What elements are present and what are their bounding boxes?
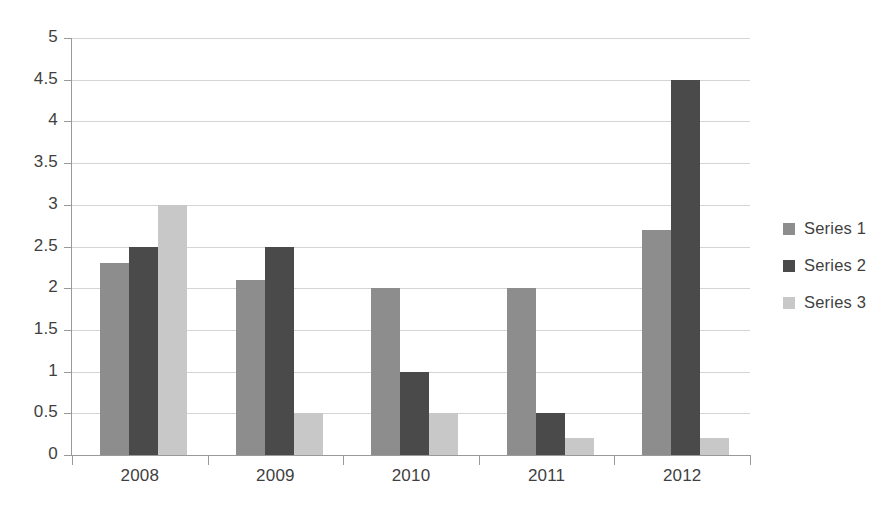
y-axis-tick-label: 0.5: [2, 402, 58, 422]
legend-label: Series 3: [804, 293, 866, 312]
y-axis-tick-label: 5: [2, 27, 58, 47]
y-axis-tick: [64, 247, 72, 248]
bar-2012-series-2: [671, 80, 700, 455]
y-axis-tick-label: 4.5: [2, 69, 58, 89]
bar-2011-series-1: [507, 288, 536, 455]
bar-2008-series-1: [100, 263, 129, 455]
y-axis-tick-label: 4: [2, 110, 58, 130]
y-axis-tick: [64, 288, 72, 289]
bar-group: [507, 38, 594, 455]
x-axis-tick-label: 2008: [72, 466, 208, 486]
y-axis-tick: [64, 413, 72, 414]
x-axis-tick-label: 2012: [614, 466, 750, 486]
bar-group: [371, 38, 458, 455]
bar-2009-series-3: [294, 413, 323, 455]
bar-2011-series-2: [536, 413, 565, 455]
y-axis-tick-label: 3.5: [2, 152, 58, 172]
x-axis-line: [72, 455, 751, 456]
y-axis-tick-label: 2: [2, 277, 58, 297]
x-axis-tick-label: 2010: [343, 466, 479, 486]
bar-2010-series-1: [371, 288, 400, 455]
bar-2009-series-1: [236, 280, 265, 455]
bar-2010-series-2: [400, 372, 429, 455]
bar-group: [236, 38, 323, 455]
x-axis-tick: [343, 456, 344, 465]
bar-2009-series-2: [265, 247, 294, 456]
y-axis-tick-label: 0: [2, 444, 58, 464]
x-axis-tick: [479, 456, 480, 465]
y-axis-tick: [64, 372, 72, 373]
legend-label: Series 2: [804, 256, 866, 275]
x-axis-tick: [72, 456, 73, 465]
bar-2012-series-3: [700, 438, 729, 455]
legend-item-series-2[interactable]: Series 2: [783, 247, 883, 284]
y-axis-tick: [64, 38, 72, 39]
y-axis-tick: [64, 455, 72, 456]
bar-chart: 00.511.522.533.544.55 200820092010201120…: [0, 0, 888, 515]
y-axis-tick-label: 1: [2, 361, 58, 381]
bar-2008-series-2: [129, 247, 158, 456]
y-axis-tick: [64, 205, 72, 206]
y-axis-tick: [64, 163, 72, 164]
y-axis-tick: [64, 121, 72, 122]
bar-2010-series-3: [429, 413, 458, 455]
legend-swatch-icon: [783, 297, 795, 309]
x-axis-tick: [614, 456, 615, 465]
bar-2012-series-1: [642, 230, 671, 455]
bar-2011-series-3: [565, 438, 594, 455]
bar-2008-series-3: [158, 205, 187, 455]
legend: Series 1Series 2Series 3: [783, 210, 883, 321]
y-axis-tick: [64, 80, 72, 81]
x-axis-tick-label: 2009: [208, 466, 344, 486]
y-axis-labels: 00.511.522.533.544.55: [0, 0, 58, 515]
x-axis-tick: [750, 456, 751, 465]
legend-item-series-1[interactable]: Series 1: [783, 210, 883, 247]
legend-swatch-icon: [783, 223, 795, 235]
legend-label: Series 1: [804, 219, 866, 238]
y-axis-tick-label: 2.5: [2, 236, 58, 256]
bar-group: [100, 38, 187, 455]
plot-area: [72, 38, 750, 455]
legend-swatch-icon: [783, 260, 795, 272]
y-axis-tick: [64, 330, 72, 331]
y-axis-tick-label: 3: [2, 194, 58, 214]
bar-group: [642, 38, 729, 455]
legend-item-series-3[interactable]: Series 3: [783, 284, 883, 321]
y-axis-tick-label: 1.5: [2, 319, 58, 339]
x-axis-tick-label: 2011: [479, 466, 615, 486]
x-axis-tick: [208, 456, 209, 465]
